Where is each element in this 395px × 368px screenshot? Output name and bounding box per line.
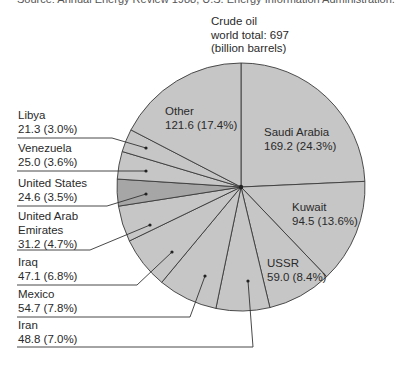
slice-label-iraq: Iraq47.1 (6.8%) xyxy=(18,255,77,283)
slice-label-iran: Iran48.8 (7.0%) xyxy=(18,318,77,346)
slice-label-venezuela: Venezuela25.0 (3.6%) xyxy=(18,141,77,169)
slice-label-saudi-arabia: Saudi Arabia169.2 (24.3%) xyxy=(264,125,336,153)
slice-label-united-states: United States24.6 (3.5%) xyxy=(18,176,87,204)
slice-label-kuwait: Kuwait94.5 (13.6%) xyxy=(292,200,358,228)
slice-label-mexico: Mexico54.7 (7.8%) xyxy=(18,287,77,315)
slice-label-uae: United ArabEmirates31.2 (4.7%) xyxy=(18,209,78,251)
slice-label-libya: Libya21.3 (3.0%) xyxy=(18,108,77,136)
slice-label-other: Other121.6 (17.4%) xyxy=(165,104,237,132)
slice-label-ussr: USSR59.0 (8.4%) xyxy=(267,256,326,284)
